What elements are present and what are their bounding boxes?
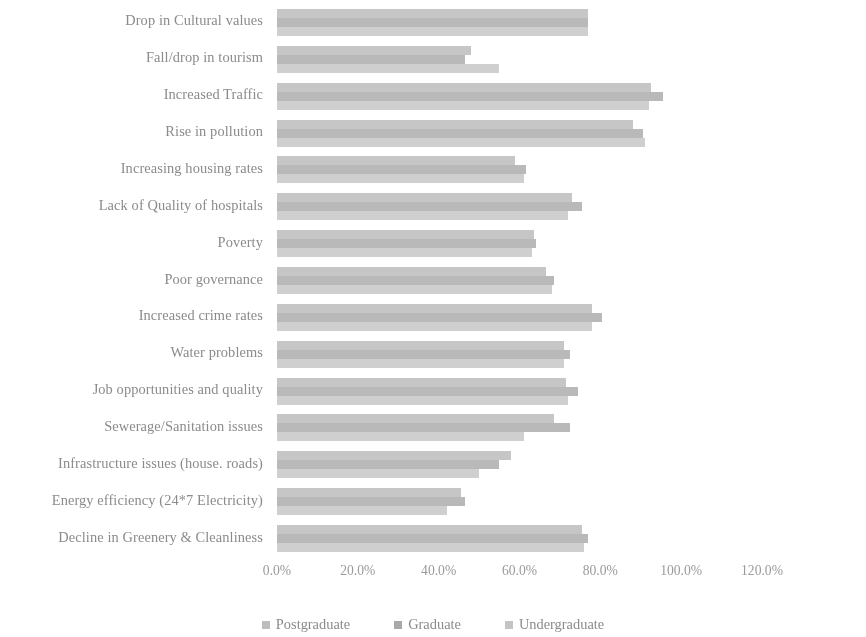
bar-postgrad [277, 322, 592, 331]
bar-undergrad [277, 414, 554, 423]
legend-label: Postgraduate [276, 616, 350, 633]
legend-label: Graduate [408, 616, 461, 633]
bar-undergrad [277, 488, 461, 497]
chart-legend: PostgraduateGraduateUndergraduate [0, 612, 866, 636]
legend-label: Undergraduate [519, 616, 604, 633]
bar-group [277, 78, 762, 115]
legend-swatch-icon [262, 621, 270, 629]
x-axis-tick-label: 80.0% [583, 563, 618, 579]
bar-postgrad [277, 285, 552, 294]
bar-undergrad [277, 378, 566, 387]
bar-undergrad [277, 230, 534, 239]
bar-undergrad [277, 341, 564, 350]
bar-group [277, 410, 762, 447]
bar-grad [277, 313, 602, 322]
category-label: Fall/drop in tourism [146, 50, 263, 64]
bar-postgrad [277, 469, 479, 478]
bar-postgrad [277, 432, 524, 441]
bar-grad [277, 387, 578, 396]
value-axis: 0.0%20.0%40.0%60.0%80.0%100.0%120.0% [277, 557, 762, 558]
category-label: Poverty [218, 235, 263, 249]
bar-grad [277, 350, 570, 359]
bar-grad [277, 18, 588, 27]
bar-postgrad [277, 359, 564, 368]
x-axis-tick-label: 60.0% [502, 563, 537, 579]
bar-postgrad [277, 64, 499, 73]
bar-grad [277, 497, 465, 506]
legend-item-undergrad[interactable]: Undergraduate [505, 616, 604, 633]
category-label: Infrastructure issues (house. roads) [58, 456, 263, 470]
bar-grad [277, 55, 465, 64]
bar-group [277, 483, 762, 520]
bar-group [277, 520, 762, 557]
legend-item-postgrad[interactable]: Postgraduate [262, 616, 350, 633]
category-label: Increasing housing rates [121, 161, 263, 175]
bar-group [277, 299, 762, 336]
bar-grad [277, 165, 526, 174]
category-label: Lack of Quality of hospitals [99, 198, 263, 212]
bar-group [277, 446, 762, 483]
bar-group [277, 151, 762, 188]
bar-undergrad [277, 46, 471, 55]
bar-postgrad [277, 506, 447, 515]
bar-group [277, 225, 762, 262]
bar-group [277, 373, 762, 410]
bar-undergrad [277, 83, 651, 92]
bar-grad [277, 460, 499, 469]
bar-chart: Drop in Cultural valuesFall/drop in tour… [0, 0, 866, 637]
category-label: Increased Traffic [164, 87, 263, 101]
bar-group [277, 336, 762, 373]
legend-swatch-icon [505, 621, 513, 629]
plot-area [277, 4, 762, 557]
bar-postgrad [277, 396, 568, 405]
category-label: Increased crime rates [139, 308, 263, 322]
category-label: Job opportunities and quality [93, 382, 263, 396]
bar-undergrad [277, 156, 515, 165]
bar-postgrad [277, 211, 568, 220]
category-label: Drop in Cultural values [125, 13, 263, 27]
bar-postgrad [277, 101, 649, 110]
category-label: Energy efficiency (24*7 Electricity) [52, 493, 263, 507]
legend-swatch-icon [394, 621, 402, 629]
bar-undergrad [277, 525, 582, 534]
bar-postgrad [277, 248, 532, 257]
category-label: Decline in Greenery & Cleanliness [58, 530, 263, 544]
category-label: Rise in pollution [165, 124, 263, 138]
bar-group [277, 188, 762, 225]
bar-postgrad [277, 543, 584, 552]
x-axis-tick-label: 120.0% [741, 563, 783, 579]
bar-group [277, 4, 762, 41]
category-axis-labels: Drop in Cultural valuesFall/drop in tour… [0, 4, 272, 557]
bar-postgrad [277, 174, 524, 183]
bar-grad [277, 129, 643, 138]
category-label: Sewerage/Sanitation issues [104, 419, 263, 433]
category-label: Poor governance [164, 272, 263, 286]
x-axis-tick-label: 40.0% [421, 563, 456, 579]
bar-grad [277, 534, 588, 543]
x-axis-tick-label: 20.0% [340, 563, 375, 579]
x-axis-tick-label: 100.0% [660, 563, 702, 579]
category-label: Water problems [170, 345, 263, 359]
bar-undergrad [277, 9, 588, 18]
bar-grad [277, 239, 536, 248]
bar-group [277, 115, 762, 152]
bar-undergrad [277, 120, 633, 129]
x-axis-tick-label: 0.0% [263, 563, 291, 579]
bar-undergrad [277, 304, 592, 313]
bar-grad [277, 276, 554, 285]
bar-undergrad [277, 267, 546, 276]
bar-undergrad [277, 193, 572, 202]
bar-grad [277, 423, 570, 432]
legend-item-grad[interactable]: Graduate [394, 616, 461, 633]
bar-postgrad [277, 27, 588, 36]
bar-grad [277, 202, 582, 211]
bar-grad [277, 92, 663, 101]
bar-group [277, 41, 762, 78]
bar-group [277, 262, 762, 299]
bar-postgrad [277, 138, 645, 147]
bar-undergrad [277, 451, 511, 460]
